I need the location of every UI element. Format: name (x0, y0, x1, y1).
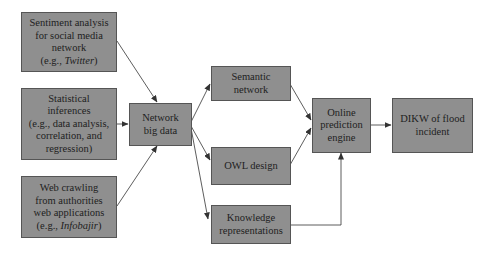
node-sentiment-analysis: Sentiment analysis for social media netw… (21, 12, 117, 72)
edge-knowledge-online (290, 153, 341, 225)
node-label: Web crawling from authorities web applic… (34, 182, 105, 232)
node-semantic-network: Semantic network (211, 66, 291, 101)
node-dikw-flood-incident: DIKW of flood incident (392, 98, 473, 153)
node-label: Knowledge representations (219, 212, 283, 237)
node-online-prediction-engine: Online prediction engine (312, 98, 371, 153)
flood-dikw-diagram: Sentiment analysis for social media netw… (0, 0, 491, 263)
edge-sentiment-network (117, 41, 157, 102)
edge-network-semantic (191, 84, 210, 122)
node-label: OWL design (224, 160, 278, 173)
node-owl-design: OWL design (211, 147, 291, 185)
edge-owl-online (290, 128, 311, 165)
node-label: Statistical inferences (e.g., data analy… (29, 93, 109, 156)
node-label: Semantic network (231, 71, 270, 96)
node-statistical-inferences: Statistical inferences (e.g., data analy… (21, 88, 117, 160)
node-label: Sentiment analysis for social media netw… (29, 17, 108, 67)
edge-webcrawl-network (117, 146, 157, 206)
edge-semantic-online (290, 84, 311, 120)
node-network-big-data: Network big data (129, 103, 192, 146)
node-label: DIKW of flood incident (400, 113, 465, 138)
node-label: Online prediction engine (320, 107, 363, 145)
node-label: Network big data (142, 112, 179, 137)
node-knowledge-representations: Knowledge representations (211, 205, 291, 244)
node-web-crawling: Web crawling from authorities web applic… (21, 176, 117, 238)
